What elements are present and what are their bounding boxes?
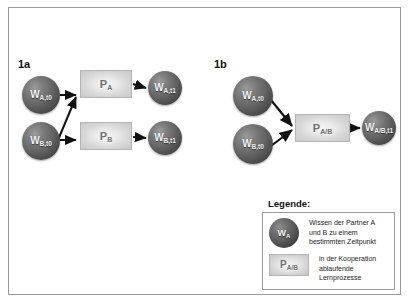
node-w-a-t0: WA,t0 — [22, 76, 60, 114]
legend-box: WA Wissen der Partner A und B zu einem b… — [262, 212, 395, 290]
node-w-a-t0-label: WA,t0 — [30, 90, 52, 100]
node-b-w-b-t0-label: WB,t0 — [242, 139, 264, 149]
node-b-w-ab-t1-label: WA/B,t1 — [365, 123, 393, 133]
node-w-b-t1: WB,t1 — [148, 121, 182, 155]
panel-label-1a: 1a — [18, 58, 30, 70]
node-b-w-ab-t1: WA/B,t1 — [362, 111, 396, 145]
process-box-p-ab: PA/B — [295, 114, 350, 142]
legend-text-process: in der Kooperation ablaufende Lernprozes… — [319, 254, 376, 283]
knowledge-sphere-icon-label: WA — [278, 229, 291, 238]
node-w-b-t0-label: WB,t0 — [30, 136, 52, 146]
node-w-a-t1: WA,t1 — [148, 71, 182, 105]
process-box-p-a-label: PA — [100, 79, 112, 90]
process-box-p-b: PB — [80, 122, 132, 150]
legend-title: Legende: — [268, 198, 310, 209]
process-box-p-a: PA — [80, 70, 132, 98]
node-w-a-t1-label: WA,t1 — [154, 83, 176, 93]
process-box-p-b-label: PB — [100, 131, 112, 142]
legend-entry-process: PA/B in der Kooperation ablaufende Lernp… — [269, 254, 376, 283]
panel-label-1b: 1b — [214, 58, 227, 70]
node-b-w-a-t0: WA,t0 — [233, 76, 273, 116]
node-b-w-b-t0: WB,t0 — [233, 124, 273, 164]
node-w-b-t1-label: WB,t1 — [154, 133, 176, 143]
process-box-icon-label: PA/B — [280, 260, 298, 270]
knowledge-sphere-icon: WA — [269, 218, 299, 248]
process-box-p-ab-label: PA/B — [313, 123, 332, 134]
node-w-b-t0: WB,t0 — [22, 122, 60, 160]
process-box-icon: PA/B — [269, 254, 309, 276]
node-b-w-a-t0-label: WA,t0 — [242, 91, 264, 101]
diagram-figure: 1a WA,t0 WB,t0 PA PB WA,t1 WB,t1 1b WA,t… — [0, 0, 410, 304]
legend-entry-knowledge: WA Wissen der Partner A und B zu einem b… — [269, 218, 376, 248]
legend-text-knowledge: Wissen der Partner A und B zu einem best… — [309, 218, 376, 247]
